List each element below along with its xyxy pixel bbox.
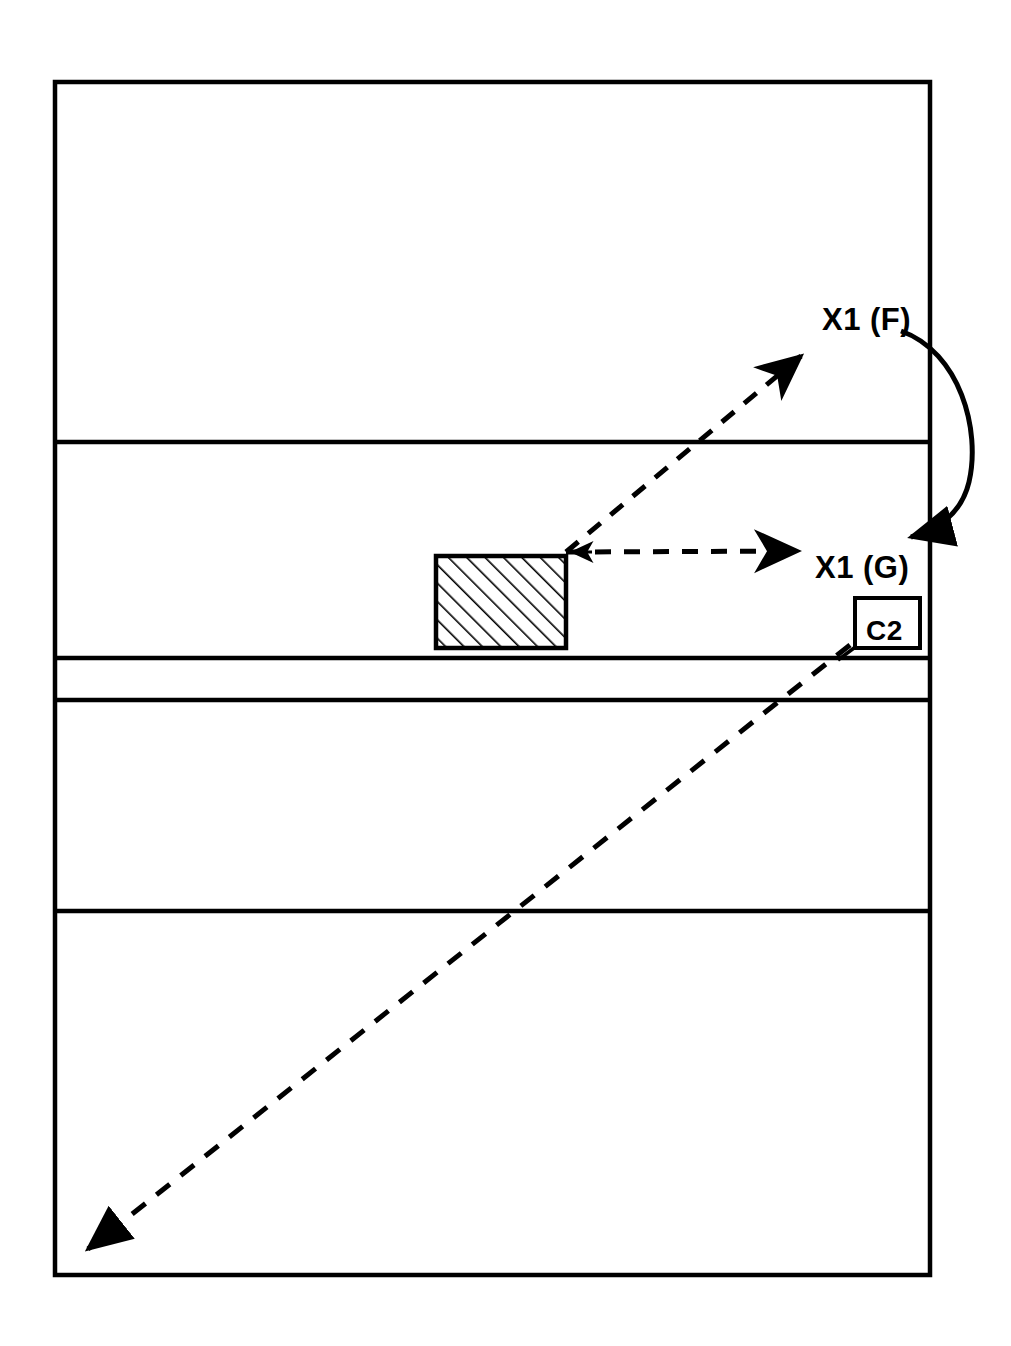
- label-c2: C2: [866, 615, 903, 646]
- label-x1-g: X1 (G): [815, 550, 909, 585]
- outer-frame: [55, 82, 930, 1275]
- curved-arrow-x1f-to-x1g: [901, 331, 972, 537]
- dashed-arrow-long-diagonal: [88, 645, 850, 1249]
- hatched-block-fill: [437, 557, 564, 646]
- dashed-arrow-to-x1g: [566, 551, 798, 552]
- diagram-page: X1 (F) X1 (G) C2: [0, 0, 1011, 1346]
- dashed-arrow-to-x1f: [566, 356, 801, 552]
- label-x1-f: X1 (F): [822, 302, 911, 337]
- technical-diagram-canvas: X1 (F) X1 (G) C2: [0, 0, 1011, 1346]
